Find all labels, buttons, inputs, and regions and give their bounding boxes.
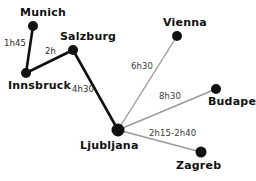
edge-label-innsbruck-salzburg: 2h (45, 47, 56, 56)
city-node-munich[interactable] (28, 21, 38, 31)
city-node-zagreb[interactable] (196, 147, 207, 158)
city-node-vienna[interactable] (172, 31, 182, 41)
edge-label-salzburg-ljubljana: 4h30 (72, 85, 94, 94)
edge-label-ljubljana-vienna: 6h30 (131, 62, 153, 71)
city-label-innsbruck: Innsbruck (8, 80, 71, 91)
city-node-budapest[interactable] (211, 84, 221, 94)
edge-label-ljubljana-budapest: 8h30 (159, 92, 181, 101)
city-label-ljubljana: Ljubljana (80, 140, 139, 151)
city-label-zagreb: Zagreb (176, 160, 221, 171)
edge-label-ljubljana-zagreb: 2h15-2h40 (149, 129, 196, 138)
city-node-ljubljana[interactable] (112, 124, 125, 137)
city-label-salzburg: Salzburg (60, 31, 116, 42)
city-label-vienna: Vienna (163, 17, 207, 28)
city-label-budapest: Budapest (208, 96, 256, 107)
travel-time-map: 1h452h4h306h308h302h15-2h40MunichSalzbur… (0, 0, 256, 181)
city-node-salzburg[interactable] (68, 45, 78, 55)
edge-ljubljana-vienna (118, 36, 177, 130)
city-node-innsbruck[interactable] (21, 68, 31, 78)
city-label-munich: Munich (20, 7, 66, 18)
edge-label-munich-innsbruck: 1h45 (4, 39, 26, 48)
edge-munich-innsbruck (26, 26, 33, 73)
